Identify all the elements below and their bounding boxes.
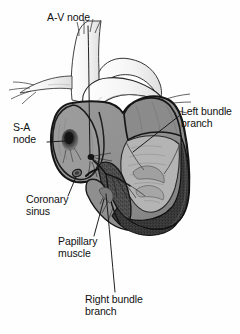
label-av-node: A-V node: [47, 12, 90, 24]
label-coronary-sinus: Coronary sinus: [26, 194, 68, 217]
label-left-bundle-branch: Left bundle branch: [181, 106, 232, 129]
figure-canvas: A-V node S-A node Left bundle branch Cor…: [0, 0, 240, 334]
label-right-bundle-branch: Right bundle branch: [85, 294, 143, 317]
label-sa-node: S-A node: [13, 122, 36, 145]
heart-diagram: [0, 0, 240, 334]
label-papillary-muscle: Papillary muscle: [58, 236, 97, 259]
